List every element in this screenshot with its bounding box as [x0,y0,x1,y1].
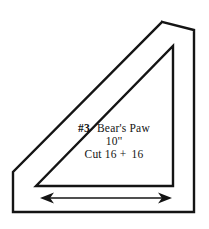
cutting-line-triangle [36,46,173,186]
quilt-template-diagram: #3Bear's Paw 10'' Cut 16 + 16 [0,0,209,229]
grain-line-arrow [40,193,172,204]
pattern-drawing [0,0,209,229]
